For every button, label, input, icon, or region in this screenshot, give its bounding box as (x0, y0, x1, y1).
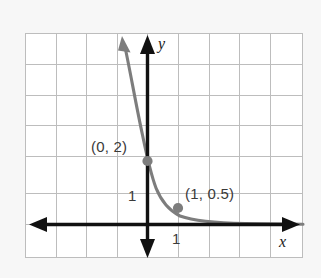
data-point-1-05 (173, 203, 183, 213)
x-axis-tick-label-1: 1 (172, 231, 180, 246)
y-axis-tick-label-1: 1 (128, 188, 136, 203)
x-axis-label: x (279, 234, 286, 250)
graph-figure: (0, 2) (1, 0.5) 1 1 y x (0, 0, 321, 278)
annotation-label-1-05: (1, 0.5) (185, 186, 234, 201)
data-point-0-2 (142, 156, 152, 166)
annotation-label-0-2: (0, 2) (91, 139, 127, 154)
y-axis-label: y (158, 36, 165, 52)
